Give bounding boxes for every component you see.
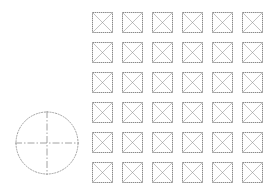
box-x-icon	[243, 43, 263, 63]
box-x-icon	[93, 163, 113, 183]
box-x-icon	[183, 13, 203, 33]
box-x-icon	[93, 73, 113, 93]
box-grid	[93, 13, 263, 183]
diagram-canvas	[0, 0, 277, 192]
box-x-icon	[123, 13, 143, 33]
box-x-icon	[213, 13, 233, 33]
box-x-icon	[183, 163, 203, 183]
box-x-icon	[243, 133, 263, 153]
box-x-icon	[93, 103, 113, 123]
box-x-icon	[213, 163, 233, 183]
box-x-icon	[153, 103, 173, 123]
box-x-icon	[123, 133, 143, 153]
box-x-icon	[153, 13, 173, 33]
box-x-icon	[213, 103, 233, 123]
box-x-icon	[93, 43, 113, 63]
box-x-icon	[93, 13, 113, 33]
box-x-icon	[123, 73, 143, 93]
box-x-icon	[213, 43, 233, 63]
box-x-icon	[153, 133, 173, 153]
box-x-icon	[123, 103, 143, 123]
box-x-icon	[243, 73, 263, 93]
box-x-icon	[123, 163, 143, 183]
box-x-icon	[213, 73, 233, 93]
box-x-icon	[93, 133, 113, 153]
box-x-icon	[183, 73, 203, 93]
circle-with-crosshair	[15, 111, 79, 175]
box-x-icon	[243, 13, 263, 33]
box-x-icon	[153, 43, 173, 63]
box-x-icon	[153, 73, 173, 93]
box-x-icon	[243, 103, 263, 123]
box-x-icon	[213, 133, 233, 153]
box-x-icon	[183, 133, 203, 153]
box-x-icon	[243, 163, 263, 183]
box-x-icon	[183, 103, 203, 123]
box-x-icon	[123, 43, 143, 63]
box-x-icon	[183, 43, 203, 63]
box-x-icon	[153, 163, 173, 183]
